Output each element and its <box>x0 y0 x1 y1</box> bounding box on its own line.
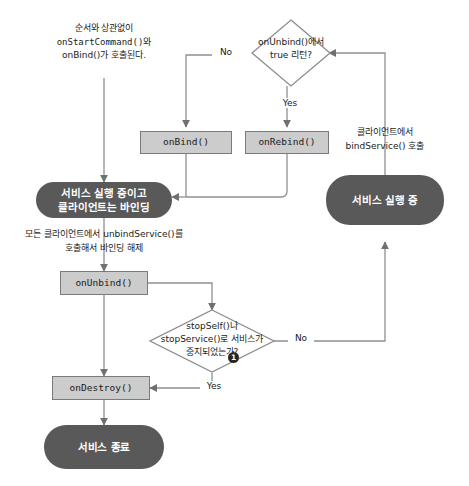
decision-shape-stopped <box>150 310 274 372</box>
annotation-line: 순서와 상관없이 <box>26 22 182 36</box>
state-running-and-bound[interactable]: 서비스 실행 중이고 클라이언트는 바인딩 <box>36 182 172 218</box>
process-onrebind[interactable]: onRebind() <box>245 131 329 154</box>
annotation-line: onStartCommand()와 <box>26 36 182 50</box>
edge-onrebind-drop <box>186 153 287 197</box>
edge-label-unbind-yes: Yes <box>276 98 304 108</box>
annotation-line: 호출해서 바인딩 해제 <box>0 242 208 256</box>
annotation-start-note: 순서와 상관없이 onStartCommand()와 onBind()가 호출된… <box>26 22 182 63</box>
state-running[interactable]: 서비스 실행 중 <box>326 175 444 225</box>
edge-label-stopped-no: No <box>288 333 314 343</box>
edge-onunbind-to-decision <box>148 283 212 310</box>
process-onbind[interactable]: onBind() <box>140 131 232 154</box>
state-line: 서비스 실행 중이고 <box>61 186 146 200</box>
annotation-line: 모든 클라이언트에서 unbindService()를 <box>0 228 208 242</box>
annotation-line: 클라이언트에서 <box>320 126 450 140</box>
annotation-line: onBind()가 호출된다. <box>26 49 182 63</box>
footnote-badge-1: 1 <box>228 352 239 363</box>
annotation-unbind-note: 모든 클라이언트에서 unbindService()를 호출해서 바인딩 해제 <box>0 228 208 255</box>
state-line: 클라이언트는 바인딩 <box>58 200 150 214</box>
edge-label-unbind-no: No <box>213 47 239 57</box>
decision-shape-unbind-true <box>252 20 330 86</box>
annotation-bindservice-note: 클라이언트에서 bindService() 호출 <box>320 126 450 153</box>
state-terminated[interactable]: 서비스 종료 <box>44 425 164 469</box>
annotation-line: bindService() 호출 <box>320 140 450 154</box>
process-onunbind[interactable]: onUnbind() <box>60 271 148 295</box>
service-lifecycle-flowchart: 순서와 상관없이 onStartCommand()와 onBind()가 호출된… <box>0 0 469 486</box>
edge-no-to-running <box>274 242 385 341</box>
edge-no-to-onbind <box>186 55 212 127</box>
edge-label-stopped-yes: Yes <box>200 381 228 391</box>
process-ondestroy[interactable]: onDestroy() <box>52 376 150 400</box>
